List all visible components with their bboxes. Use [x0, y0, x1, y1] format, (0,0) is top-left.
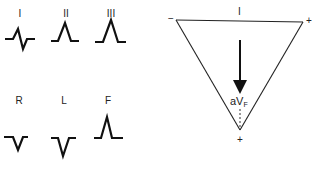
- triangle-left-pole: −: [168, 14, 174, 24]
- lead-label-F: F: [98, 96, 118, 106]
- avf-axis-label: aVF: [230, 96, 248, 110]
- diagram-canvas: [0, 0, 314, 173]
- lead-label-R: R: [9, 96, 29, 106]
- triangle-right-pole: +: [306, 16, 312, 26]
- lead-label-L: L: [54, 96, 74, 106]
- triangle-bottom-pole: +: [237, 135, 243, 145]
- waveform-lead-III: [95, 20, 126, 42]
- lead-label-I: I: [10, 9, 30, 19]
- avf-label-main: aV: [230, 95, 243, 107]
- waveform-lead-F: [94, 117, 123, 138]
- waveform-lead-II: [51, 23, 79, 41]
- waveform-lead-R: [4, 137, 28, 150]
- axis-arrow: [233, 40, 247, 94]
- lead-label-III: III: [101, 9, 121, 19]
- triangle-top-label: I: [238, 7, 241, 17]
- avf-label-sub: F: [243, 101, 247, 108]
- lead-label-II: II: [56, 9, 76, 19]
- waveform-lead-I: [5, 29, 35, 49]
- waveform-lead-L: [51, 138, 76, 156]
